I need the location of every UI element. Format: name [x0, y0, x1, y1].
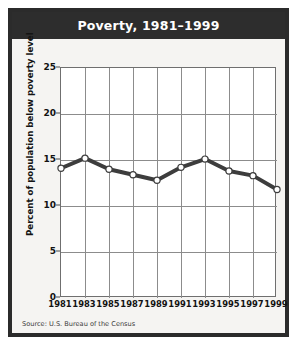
x-tick-label: 1985 — [96, 299, 119, 309]
y-tick-mark — [56, 297, 60, 298]
page-title: Poverty, 1981–1999 — [77, 18, 219, 33]
data-point-marker — [58, 165, 64, 171]
y-tick-mark — [56, 205, 60, 206]
y-tick-label: 10 — [43, 200, 56, 210]
x-tick-label: 1999 — [264, 299, 287, 309]
x-tick-label: 1997 — [240, 299, 263, 309]
y-tick-mark — [56, 113, 60, 114]
y-tick-label: 15 — [43, 154, 56, 164]
x-tick-label: 1987 — [120, 299, 143, 309]
y-tick-mark — [56, 251, 60, 252]
x-tick-label: 1989 — [144, 299, 167, 309]
line-series — [61, 68, 277, 298]
data-point-marker — [130, 172, 136, 178]
y-tick-mark — [56, 159, 60, 160]
chart-figure: Poverty, 1981–1999 Percent of population… — [8, 8, 289, 337]
data-point-marker — [226, 168, 232, 174]
data-point-marker — [250, 173, 256, 179]
data-point-marker — [154, 177, 160, 183]
y-tick-label: 20 — [43, 108, 56, 118]
x-tick-label: 1981 — [48, 299, 71, 309]
chart-title-bar: Poverty, 1981–1999 — [12, 12, 285, 39]
y-axis-title: Percent of population below poverty leve… — [25, 76, 35, 236]
x-tick-label: 1993 — [192, 299, 215, 309]
data-point-marker — [106, 166, 112, 172]
chart-area: Percent of population below poverty leve… — [12, 39, 285, 333]
y-tick-mark — [56, 67, 60, 68]
x-tick-label: 1983 — [72, 299, 95, 309]
data-point-marker — [202, 156, 208, 162]
plot-wrapper: 0510152025 19811983198519871989199119931… — [60, 67, 276, 297]
data-point-marker — [82, 155, 88, 161]
y-tick-label: 25 — [43, 62, 56, 72]
data-point-marker — [178, 164, 184, 170]
series-line — [61, 158, 277, 189]
x-tick-label: 1995 — [216, 299, 239, 309]
x-tick-label: 1991 — [168, 299, 191, 309]
plot-area — [60, 67, 276, 297]
data-point-marker — [274, 186, 280, 192]
source-note: Source: U.S. Bureau of the Census — [22, 320, 135, 328]
